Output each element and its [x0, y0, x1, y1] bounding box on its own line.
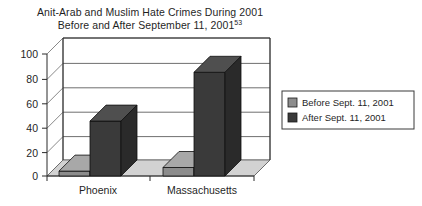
bar-phoenix-after	[90, 105, 137, 176]
x-axis-ticks	[47, 176, 254, 181]
y-tick-label-60: 60	[26, 98, 38, 110]
legend-label-after: After Sept. 11, 2001	[302, 112, 386, 123]
y-tick-label-40: 40	[26, 122, 38, 134]
category-label-massachusetts: Massachusetts	[167, 184, 237, 196]
legend-item-before[interactable]: Before Sept. 11, 2001	[288, 97, 394, 108]
y-tick-label-0: 0	[32, 170, 38, 182]
y-axis-ticks	[42, 54, 47, 176]
category-label-phoenix: Phoenix	[79, 184, 118, 196]
bar-massachusetts-after	[194, 56, 241, 176]
y-tick-label-80: 80	[26, 73, 38, 85]
x-axis-labels: Phoenix Massachusetts	[79, 184, 237, 196]
legend-item-after[interactable]: After Sept. 11, 2001	[288, 112, 386, 123]
y-axis-labels: 100 80 60 40 20 0	[20, 48, 38, 182]
y-tick-label-100: 100	[20, 48, 38, 60]
chart-figure: Anit-Arab and Muslim Hate Crimes During …	[0, 0, 422, 206]
legend-swatch-after	[288, 113, 297, 122]
chart-legend: Before Sept. 11, 2001 After Sept. 11, 20…	[282, 91, 414, 129]
y-tick-label-20: 20	[26, 147, 38, 159]
bar-chart-plot: 100 80 60 40 20 0	[0, 0, 422, 206]
legend-label-before: Before Sept. 11, 2001	[302, 97, 394, 108]
legend-swatch-before	[288, 98, 297, 107]
